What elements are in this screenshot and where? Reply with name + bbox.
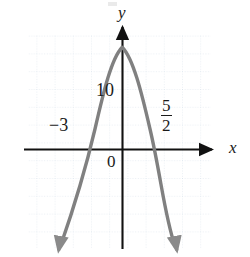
graph-canvas <box>0 0 250 257</box>
origin-label: 0 <box>107 153 116 170</box>
left-branch-arrow <box>59 240 61 251</box>
y-axis-label: y <box>118 4 126 21</box>
graph-grid <box>29 35 211 248</box>
fraction-numerator: 5 <box>161 97 172 114</box>
right-root-fraction-label: 5 2 <box>161 97 172 135</box>
fraction-denominator: 2 <box>161 117 172 134</box>
x-axis-label: x <box>229 139 237 156</box>
parabola-figure <box>0 0 250 257</box>
y-intercept-value-label: 10 <box>96 81 114 99</box>
left-root-label: −3 <box>49 116 68 134</box>
right-branch-arrow <box>175 240 177 251</box>
